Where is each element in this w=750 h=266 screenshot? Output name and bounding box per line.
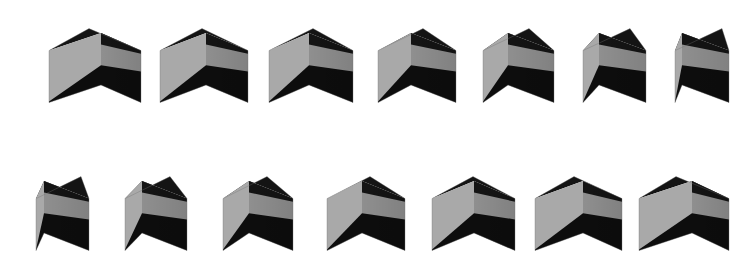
cube-5 xyxy=(473,0,564,125)
cube-right-lower-band xyxy=(692,213,729,250)
cube-right-lower-band xyxy=(362,213,405,250)
cube-right-lower-band xyxy=(206,65,248,102)
cube-right-lower-band xyxy=(44,213,89,250)
cube-3 xyxy=(259,0,363,125)
cube-10 xyxy=(213,143,303,266)
cube-8 xyxy=(26,143,99,266)
cube-14 xyxy=(629,143,739,266)
cube-1 xyxy=(39,0,151,125)
cube-right-lower-band xyxy=(682,65,729,102)
cube-7 xyxy=(665,0,739,125)
cube-9 xyxy=(115,143,197,266)
cube-13 xyxy=(525,143,632,266)
cube-right-lower-band xyxy=(309,65,353,102)
cube-right-lower-band xyxy=(599,65,646,102)
cube-right-lower-band xyxy=(411,65,456,102)
cube-4 xyxy=(368,0,466,125)
cube-right-lower-band xyxy=(508,65,554,102)
cube-2 xyxy=(150,0,258,125)
cube-right-lower-band xyxy=(249,213,293,250)
cube-12 xyxy=(422,143,525,266)
cube-right-lower-band xyxy=(474,213,515,250)
cube-right-lower-band xyxy=(101,65,141,102)
cube-sequence-canvas xyxy=(0,0,750,266)
cube-11 xyxy=(317,143,415,266)
cube-right-lower-band xyxy=(583,213,622,250)
cube-right-lower-band xyxy=(142,213,187,250)
cube-6 xyxy=(573,0,656,125)
